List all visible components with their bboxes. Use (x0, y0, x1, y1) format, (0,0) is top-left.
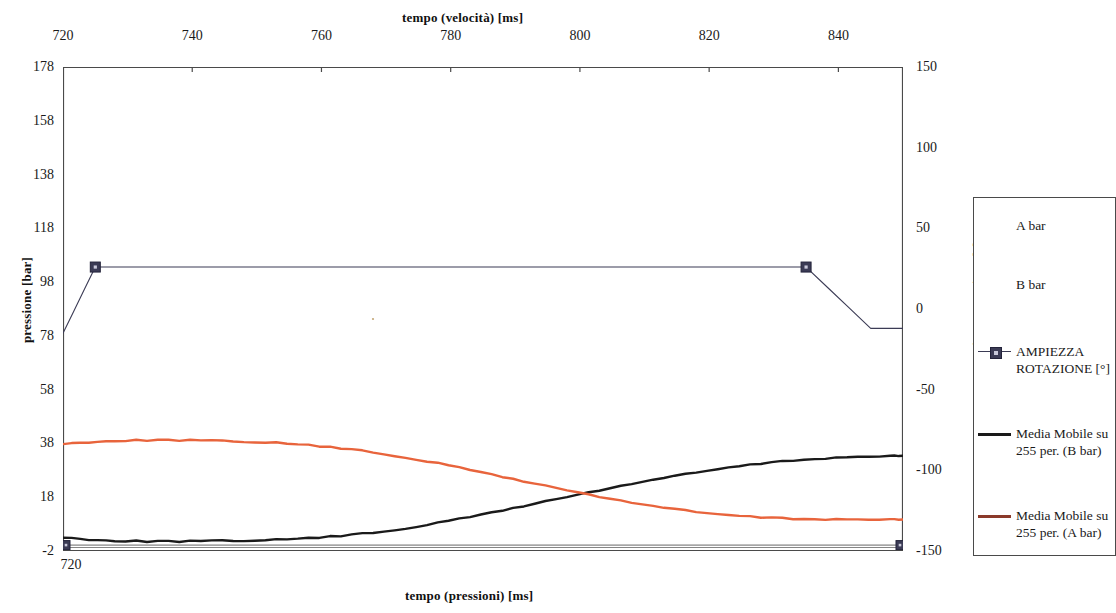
plot-canvas (63, 67, 903, 551)
right-tick-label: 150 (916, 59, 937, 75)
baseline-marker-center (899, 544, 902, 547)
legend-item-label: B bar (1016, 277, 1046, 294)
bottom-axis-title: tempo (pressioni) [ms] (405, 588, 533, 604)
left-tick-label: 138 (10, 167, 54, 183)
right-tick-label: -50 (916, 382, 935, 398)
left-tick-label: 98 (10, 274, 54, 290)
series-line (63, 456, 903, 542)
legend-item[interactable]: A bar (974, 218, 1116, 235)
left-tick-label: -2 (10, 543, 54, 559)
legend-line-icon (974, 426, 1014, 442)
legend-item[interactable]: AMPIEZZA ROTAZIONE [°] (974, 344, 1116, 377)
legend-item-label: Media Mobile su 255 per. (A bar) (1016, 508, 1114, 541)
right-tick-label: -150 (916, 543, 942, 559)
series-marker-center (804, 265, 807, 268)
legend-item-label: AMPIEZZA ROTAZIONE [°] (1016, 344, 1114, 377)
legend-item[interactable]: Media Mobile su 255 per. (B bar) (974, 426, 1116, 459)
left-tick-label: 38 (10, 435, 54, 451)
series-ampiezza-rotazione (63, 262, 903, 333)
top-tick-label: 820 (699, 28, 720, 44)
bottom-tick-label: 720 (61, 557, 82, 573)
legend-square-marker-icon (990, 347, 1002, 359)
top-tick-label: 740 (182, 28, 203, 44)
chart-figure: tempo (velocità) [ms] tempo (pressioni) … (0, 0, 1116, 613)
left-tick-label: 118 (10, 220, 54, 236)
legend-item[interactable]: B bar (974, 277, 1116, 294)
left-tick-label: 78 (10, 328, 54, 344)
top-axis-title: tempo (velocità) [ms] (402, 10, 523, 26)
top-tick-label: 840 (828, 28, 849, 44)
legend-line-marker-icon (974, 344, 1014, 360)
series-line (63, 440, 903, 520)
right-tick-label: 0 (916, 301, 923, 317)
right-tick-label: -100 (916, 462, 942, 478)
left-tick-label: 18 (10, 489, 54, 505)
series-line (63, 267, 903, 333)
plot-area (63, 67, 903, 551)
legend-item-label: Media Mobile su 255 per. (B bar) (1016, 426, 1114, 459)
series-media-mobile-su-255-per-b-bar (63, 456, 903, 542)
series-marker-center (94, 265, 97, 268)
top-tick-label: 720 (53, 28, 74, 44)
left-axis-title: pressione [bar] (19, 225, 35, 375)
left-tick-label: 178 (10, 59, 54, 75)
chart-legend: A barB barAMPIEZZA ROTAZIONE [°]Media Mo… (973, 197, 1116, 556)
legend-item-label: A bar (1016, 218, 1046, 235)
top-tick-label: 780 (440, 28, 461, 44)
right-tick-label: 100 (916, 140, 937, 156)
left-tick-label: 158 (10, 113, 54, 129)
right-tick-label: 50 (916, 220, 930, 236)
top-tick-label: 800 (569, 28, 590, 44)
left-tick-label: 58 (10, 382, 54, 398)
legend-item[interactable]: Media Mobile su 255 per. (A bar) (974, 508, 1116, 541)
legend-line-icon (974, 508, 1014, 524)
series-media-mobile-su-255-per-a-bar (63, 440, 903, 520)
scan-speck (372, 318, 374, 320)
baseline-marker-center (65, 544, 68, 547)
top-tick-label: 760 (311, 28, 332, 44)
